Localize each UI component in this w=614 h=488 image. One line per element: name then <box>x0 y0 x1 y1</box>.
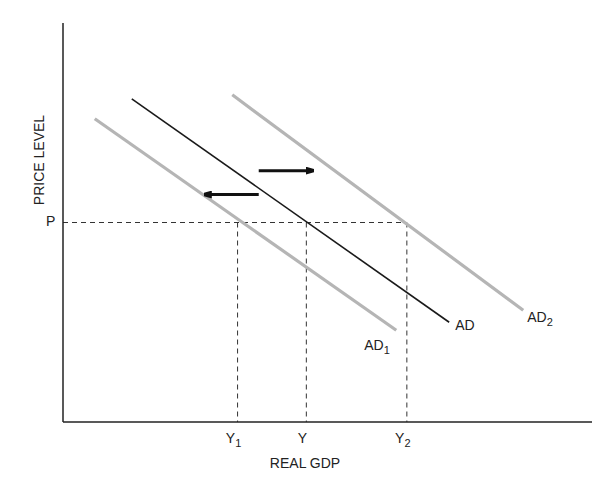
curve-ad2 <box>232 95 523 310</box>
aggregate-demand-diagram: PRICE LEVEL REAL GDP P Y1YY2ADAD1AD2 <box>0 0 614 488</box>
tick-label-y2: Y2 <box>395 430 410 449</box>
curve-ad1 <box>95 119 397 330</box>
label-ad: AD <box>455 317 474 333</box>
x-axis-label: REAL GDP <box>270 455 340 471</box>
label-ad2: AD2 <box>527 309 553 328</box>
price-level-label: P <box>46 213 55 229</box>
tick-label-y1: Y1 <box>226 430 241 449</box>
y-axis-label: PRICE LEVEL <box>31 115 47 205</box>
label-ad1: AD1 <box>364 337 390 356</box>
curve-ad <box>132 99 449 322</box>
tick-label-y: Y <box>298 430 308 446</box>
